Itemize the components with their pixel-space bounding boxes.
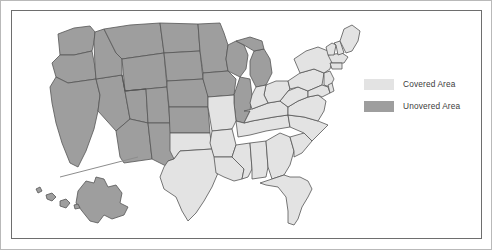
state-minnesota [198, 23, 228, 73]
state-south-dakota [164, 51, 203, 81]
state-florida [260, 175, 312, 225]
state-georgia [266, 133, 294, 179]
state-washington [58, 26, 95, 55]
state-wyoming [122, 53, 167, 91]
legend-swatch-unovered [364, 101, 394, 112]
figure-inner-frame: Covered Area Unovered Area [11, 10, 482, 239]
state-iowa [203, 71, 236, 97]
state-arkansas [210, 129, 236, 157]
state-michigan [250, 49, 272, 87]
state-wisconsin [226, 41, 248, 77]
legend-label-covered: Covered Area [403, 79, 456, 89]
legend-item-covered: Covered Area [364, 73, 482, 95]
state-hawaii-island-3 [60, 199, 70, 208]
state-nebraska [167, 79, 208, 107]
state-hawaii-island-2 [46, 193, 56, 201]
state-california [50, 77, 100, 167]
map-legend: Covered Area Unovered Area [364, 73, 482, 117]
state-alabama [250, 141, 268, 179]
state-missouri [208, 95, 236, 131]
legend-item-unovered: Unovered Area [364, 95, 482, 117]
state-north-dakota [160, 23, 200, 53]
state-new-york [294, 47, 332, 73]
legend-label-unovered: Unovered Area [403, 101, 460, 111]
us-map-svg [12, 11, 372, 240]
us-map [12, 11, 372, 240]
state-hawaii-island-1 [36, 187, 42, 193]
figure-container: Covered Area Unovered Area [0, 0, 492, 250]
legend-swatch-covered [364, 79, 394, 90]
state-alaska [76, 177, 128, 223]
state-kansas [169, 107, 210, 133]
state-vermont [326, 43, 336, 55]
state-connecticut [330, 63, 342, 69]
